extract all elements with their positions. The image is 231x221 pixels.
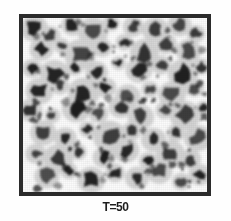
figure-caption: T=50: [0, 200, 231, 214]
micrograph-image: [23, 18, 207, 192]
micrograph-frame: [19, 14, 211, 196]
figure-panel: T=50: [0, 0, 231, 221]
